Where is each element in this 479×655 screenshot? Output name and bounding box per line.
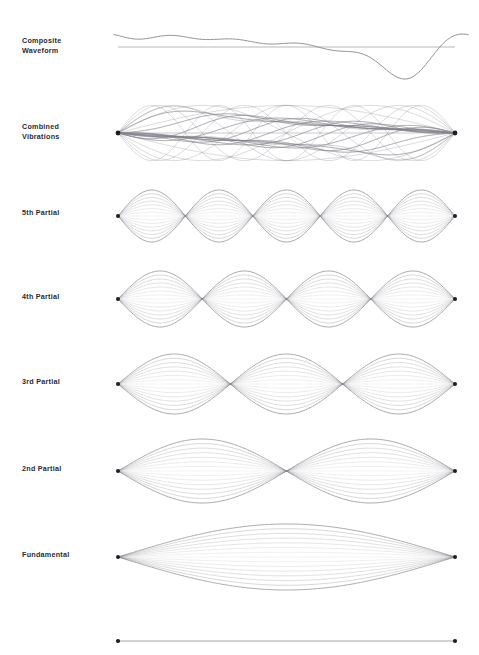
diagram-row-partial-2: 2nd Partial xyxy=(0,0,479,655)
row-label-partial-3: 3rd Partial xyxy=(22,377,60,387)
diagram-row-fundamental: Fundamental xyxy=(0,0,479,655)
diagram-row-partial-4: 4th Partial xyxy=(0,0,479,655)
diagram-row-partial-5: 5th Partial xyxy=(0,0,479,655)
diagram-row-string-at-rest xyxy=(0,0,479,655)
diagram-row-partial-3: 3rd Partial xyxy=(0,0,479,655)
harmonics-diagram: Composite WaveformCombined Vibrations5th… xyxy=(0,0,479,655)
diagram-row-combined-vibrations: Combined Vibrations xyxy=(0,0,479,655)
row-label-partial-2: 2nd Partial xyxy=(22,464,62,474)
row-label-combined-vibrations: Combined Vibrations xyxy=(22,122,60,142)
diagram-row-composite-waveform: Composite Waveform xyxy=(0,0,479,655)
row-label-partial-5: 5th Partial xyxy=(22,208,60,218)
row-label-partial-4: 4th Partial xyxy=(22,292,60,302)
row-label-composite-waveform: Composite Waveform xyxy=(22,36,61,56)
row-label-fundamental: Fundamental xyxy=(22,550,69,560)
